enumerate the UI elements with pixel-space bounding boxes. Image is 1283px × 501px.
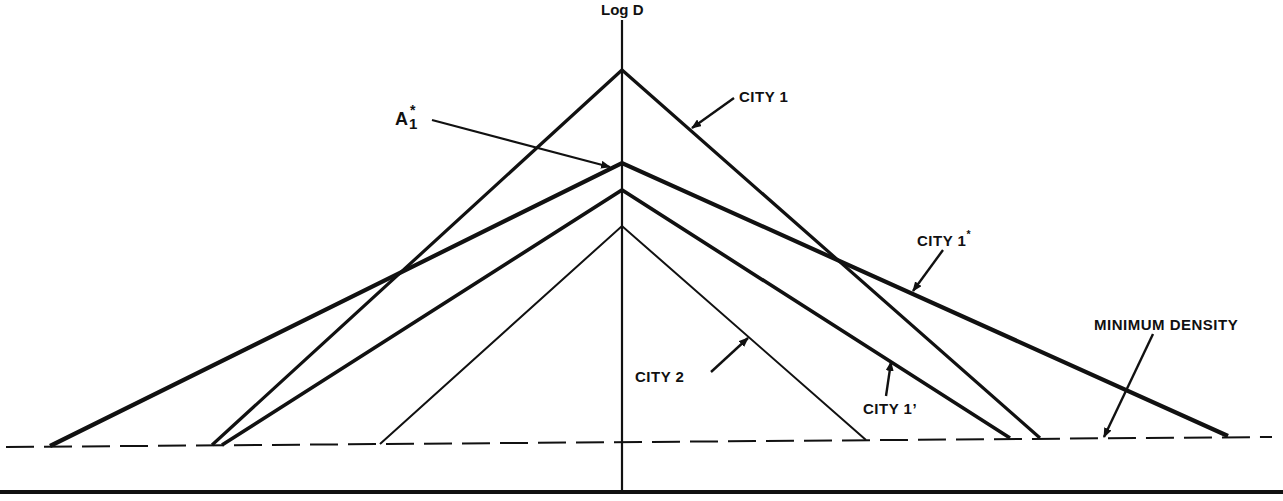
city1-prime-label: CITY 1’ — [863, 401, 917, 416]
city1-star-base: CITY 1 — [917, 232, 966, 249]
city1-star-superscript: * — [966, 228, 971, 240]
a1-star-base: A — [395, 109, 408, 129]
a1-star-arrow — [432, 120, 610, 167]
city1-star-label: CITY 1* — [917, 231, 971, 248]
log-d-axis-label: Log D — [601, 2, 644, 17]
minimum-density-line — [6, 437, 1272, 447]
city1-label: CITY 1 — [739, 89, 788, 104]
city2-arrow — [711, 338, 748, 372]
city2-label: CITY 2 — [635, 369, 684, 384]
city1-gradient — [212, 70, 1040, 445]
city1-arrow — [692, 98, 734, 128]
a1-star-label: A1* — [395, 110, 417, 128]
city1-prime-arrow — [886, 362, 891, 396]
city1-star-gradient — [50, 163, 1228, 446]
city1-star-arrow — [913, 250, 943, 291]
a1-star-superscript: * — [410, 103, 415, 117]
density-gradient-diagram — [0, 0, 1283, 501]
minimum-density-label: MINIMUM DENSITY — [1094, 317, 1238, 332]
